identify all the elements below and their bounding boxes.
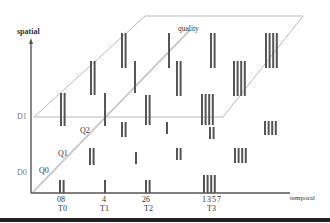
spatial-axis-label: spatial [17, 28, 40, 36]
frame-bar [264, 121, 266, 135]
frame-bar [210, 175, 212, 193]
frame-bar [149, 95, 151, 125]
bar-cluster-d1-q1-t3 [233, 61, 246, 96]
frames-t1: 4 [102, 196, 106, 204]
frame-bar [104, 93, 106, 126]
frame-bar [240, 61, 242, 96]
frame-bar [90, 61, 92, 95]
frame-bar [180, 61, 182, 96]
bar-cluster-d0-q2-t2 [209, 127, 215, 139]
scalability-diagram [0, 0, 330, 223]
bar-cluster-d0-q2-t3 [264, 121, 277, 135]
bar-cluster-d1-q0-t1 [104, 93, 106, 126]
spatial-axis-arrow-icon [29, 38, 33, 44]
frames-t2: 26 [142, 196, 150, 204]
quality-level-q2: Q2 [80, 127, 90, 135]
quality-level-q1: Q1 [58, 150, 68, 158]
frame-bar [89, 148, 91, 165]
frame-bar [241, 148, 243, 163]
frame-bar [176, 148, 178, 160]
frame-bar [210, 33, 212, 68]
frame-bar [94, 61, 96, 95]
bottom-border [0, 218, 330, 222]
bar-cluster-d1-q1-t0 [90, 61, 96, 95]
frame-bar [237, 61, 239, 96]
frame-bar [269, 33, 271, 68]
frame-bar [265, 33, 267, 68]
frame-bar [104, 180, 106, 193]
quality-axis-inner [33, 30, 190, 192]
frame-bar [207, 175, 209, 193]
bar-cluster-d0-q1-t2 [176, 148, 182, 160]
quality-axis-label: quality [178, 25, 199, 33]
bar-cluster-d0-q1-t3 [234, 148, 247, 163]
bar-cluster-d0-q1-t1 [135, 152, 137, 164]
frame-bar [212, 94, 214, 125]
frames-t3: 1357 [202, 196, 222, 204]
frame-bar [271, 121, 273, 135]
frame-bar [63, 180, 65, 193]
frame-bar [125, 122, 127, 137]
frame-bar [125, 33, 127, 68]
bar-cluster-d0-q0-t0 [59, 180, 65, 193]
bar-cluster-d1-q2-t0 [121, 33, 127, 68]
frame-bar [59, 180, 61, 193]
temporal-level-t3: T3 [207, 205, 216, 213]
frame-bar [233, 61, 235, 96]
bar-cluster-d0-q2-t0 [121, 122, 127, 137]
frame-bar [209, 127, 211, 139]
frame-bar [64, 93, 66, 126]
frame-bar [234, 148, 236, 163]
frame-bar [134, 61, 136, 93]
bar-cluster-d0-q1-t0 [89, 148, 95, 165]
frame-bar [135, 152, 137, 164]
bar-cluster-d0-q0-t3 [203, 175, 216, 193]
temporal-level-t1: T1 [100, 205, 109, 213]
bar-cluster-d1-q0-t2 [145, 95, 151, 125]
frame-bar [238, 148, 240, 163]
frame-bar [176, 61, 178, 96]
bar-cluster-d0-q2-t1 [166, 122, 168, 134]
bar-clusters [59, 33, 278, 193]
bar-cluster-d1-q2-t3 [265, 33, 278, 68]
frame-bar [213, 127, 215, 139]
bar-cluster-d1-q2-t2 [210, 33, 216, 68]
frame-bar [245, 148, 247, 163]
frame-bar [205, 94, 207, 125]
bar-cluster-d1-q0-t0 [60, 93, 66, 126]
frame-bar [244, 61, 246, 96]
frame-bar [268, 121, 270, 135]
spatial-level-d0: D0 [17, 169, 27, 177]
frame-bar [201, 94, 203, 125]
frame-bar [275, 121, 277, 135]
frame-bar [276, 33, 278, 68]
bar-cluster-d1-q1-t1 [134, 61, 136, 93]
frame-bar [145, 180, 147, 193]
frame-bar [180, 148, 182, 160]
frame-bar [93, 148, 95, 165]
bar-cluster-d0-q0-t1 [104, 180, 106, 193]
bar-cluster-d1-q2-t1 [168, 33, 170, 68]
frame-bar [214, 33, 216, 68]
bar-cluster-d1-q1-t2 [176, 61, 182, 96]
temporal-level-t0: T0 [58, 205, 67, 213]
frame-bar [214, 175, 216, 193]
bar-cluster-d0-q0-t2 [145, 180, 151, 193]
frame-bar [121, 122, 123, 137]
frame-bar [60, 93, 62, 126]
bar-cluster-d1-q0-t3 [201, 94, 214, 125]
frame-bar [168, 33, 170, 68]
temporal-level-t2: T2 [144, 205, 153, 213]
frame-bar [272, 33, 274, 68]
temporal-axis-label: temporal [290, 195, 315, 202]
frame-bar [203, 175, 205, 193]
frame-bar [121, 33, 123, 68]
quality-level-q0: Q0 [39, 167, 49, 175]
frames-t0: 08 [57, 196, 65, 204]
frame-bar [145, 95, 147, 125]
frame-bar [166, 122, 168, 134]
frame-bar [149, 180, 151, 193]
frame-bar [208, 94, 210, 125]
spatial-level-d1: D1 [17, 113, 27, 121]
